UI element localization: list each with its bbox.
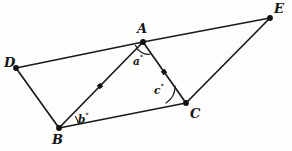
- vertex-label-E: E: [274, 2, 284, 15]
- vertex-dot-A: [140, 39, 146, 45]
- segment-DB: [16, 68, 59, 128]
- angle-letter-a: a: [133, 55, 140, 67]
- vertex-label-A: A: [137, 22, 147, 35]
- vertex-label-D: D: [4, 56, 15, 69]
- degree-symbol-b: °: [85, 111, 89, 120]
- angle-label-c: c°: [154, 83, 164, 95]
- segment-DA: [16, 42, 143, 68]
- degree-symbol-a: °: [140, 53, 144, 62]
- vertex-dot-B: [56, 125, 62, 131]
- angle-label-a: a°: [133, 54, 143, 66]
- angle-label-b: b°: [78, 112, 89, 124]
- vertex-label-C: C: [190, 107, 200, 120]
- vertex-label-B: B: [52, 133, 63, 146]
- vertex-dot-E: [267, 15, 273, 21]
- vertex-dot-C: [183, 100, 189, 106]
- degree-symbol-c: °: [160, 82, 164, 91]
- geometry-diagram: D A E B C a° b° c°: [0, 0, 292, 151]
- angle-arc-c: [166, 86, 175, 103]
